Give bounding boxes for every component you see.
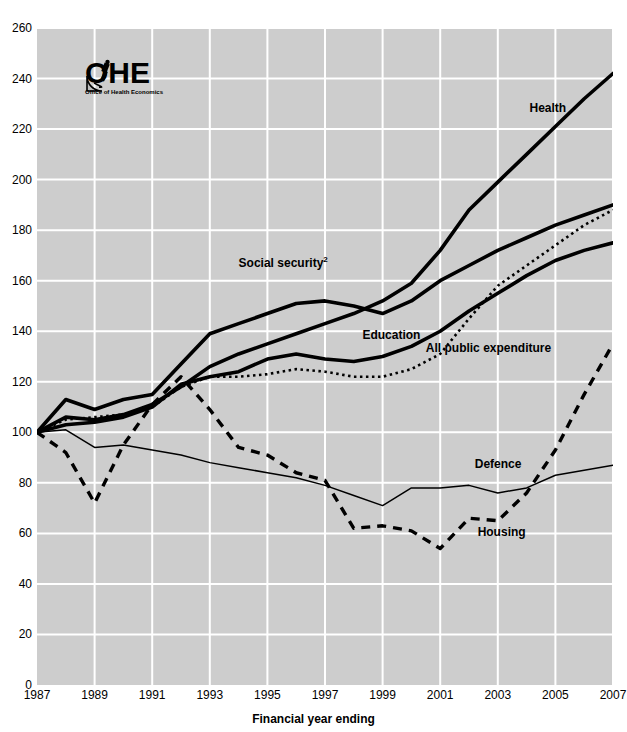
x-axis-tick-label: 1999 xyxy=(369,688,396,702)
y-axis-tick-label: 220 xyxy=(12,122,32,136)
y-axis-tick-label: 120 xyxy=(12,375,32,389)
y-axis-tick-label: 80 xyxy=(19,476,32,490)
y-axis-tick-label: 20 xyxy=(19,627,32,641)
x-axis-tick-label: 2003 xyxy=(484,688,511,702)
y-axis-tick-label: 240 xyxy=(12,72,32,86)
gridlines xyxy=(37,28,613,685)
y-axis-tick-label: 200 xyxy=(12,173,32,187)
chart-root: 020406080100120140160180200220240260 OHE… xyxy=(0,0,627,732)
logo-text: OHE xyxy=(85,58,150,88)
x-axis-tick-label: 2005 xyxy=(542,688,569,702)
series-label-defence: Defence xyxy=(475,457,522,471)
y-axis-tick-label: 60 xyxy=(19,526,32,540)
y-axis-tick-label: 40 xyxy=(19,577,32,591)
plot-area xyxy=(37,28,613,685)
ohe-logo: OHE Office of Health Economics xyxy=(41,29,149,73)
x-axis-title: Financial year ending xyxy=(0,712,627,726)
series-label-housing: Housing xyxy=(478,525,526,539)
plot-svg xyxy=(37,28,613,685)
x-axis-tick-label: 1991 xyxy=(139,688,166,702)
series-label-all-public-expenditure: All public expenditure xyxy=(426,341,551,355)
x-axis-tick-label: 1993 xyxy=(196,688,223,702)
logo-subtitle: Office of Health Economics xyxy=(85,89,163,95)
y-axis-tick-label: 260 xyxy=(12,21,32,35)
y-axis-tick-label: 140 xyxy=(12,324,32,338)
y-axis-tick-label: 160 xyxy=(12,274,32,288)
series-label-superscript: 2 xyxy=(323,255,327,264)
series-label-education: Education xyxy=(362,328,420,342)
series-label-health: Health xyxy=(529,101,566,115)
x-axis-tick-label: 2001 xyxy=(427,688,454,702)
x-axis: 1987198919911993199519971999200120032005… xyxy=(37,688,613,712)
x-axis-tick-label: 1987 xyxy=(24,688,51,702)
y-axis-tick-label: 100 xyxy=(12,425,32,439)
y-axis-tick-label: 180 xyxy=(12,223,32,237)
x-axis-tick-label: 1989 xyxy=(81,688,108,702)
y-axis: 020406080100120140160180200220240260 xyxy=(0,0,37,732)
x-axis-tick-label: 1995 xyxy=(254,688,281,702)
x-axis-tick-label: 1997 xyxy=(312,688,339,702)
series-label-social-security2: Social security2 xyxy=(239,255,328,270)
x-axis-tick-label: 2007 xyxy=(600,688,627,702)
